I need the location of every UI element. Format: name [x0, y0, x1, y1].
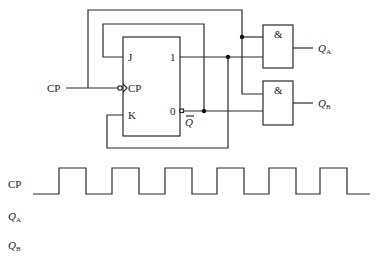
qa-output-label: Q: [318, 42, 326, 54]
qa-output-sub: A: [326, 48, 331, 56]
wave-label-qb: Q: [8, 239, 16, 251]
junction-dot: [240, 35, 244, 39]
and-a-symbol: &: [274, 28, 283, 40]
clk-pin-label: CP: [128, 82, 141, 94]
qb-output-label: Q: [318, 97, 326, 109]
q-pin-label: 1: [170, 51, 176, 63]
qbar-label: Q: [185, 116, 193, 128]
wave-label-qa: Q: [8, 210, 16, 222]
wave-label-qa-sub: A: [16, 216, 21, 224]
qbar-pin-label: 0: [170, 105, 176, 117]
wave-label-qb-sub: B: [16, 245, 21, 253]
circuit-diagram: CP J K CP 1 0 Q & Q A & Q B CP Q A Q B: [0, 0, 379, 268]
j-pin-label: J: [128, 51, 133, 63]
k-pin-label: K: [128, 109, 136, 121]
cp-input-label: CP: [47, 82, 60, 94]
cp-waveform: [33, 168, 370, 194]
and-b-symbol: &: [274, 84, 283, 96]
qbar-bubble-icon: [180, 109, 184, 113]
clock-bubble-icon: [118, 86, 122, 90]
wave-label-cp: CP: [8, 178, 21, 190]
junction-dot: [202, 109, 206, 113]
qb-output-sub: B: [326, 103, 331, 111]
